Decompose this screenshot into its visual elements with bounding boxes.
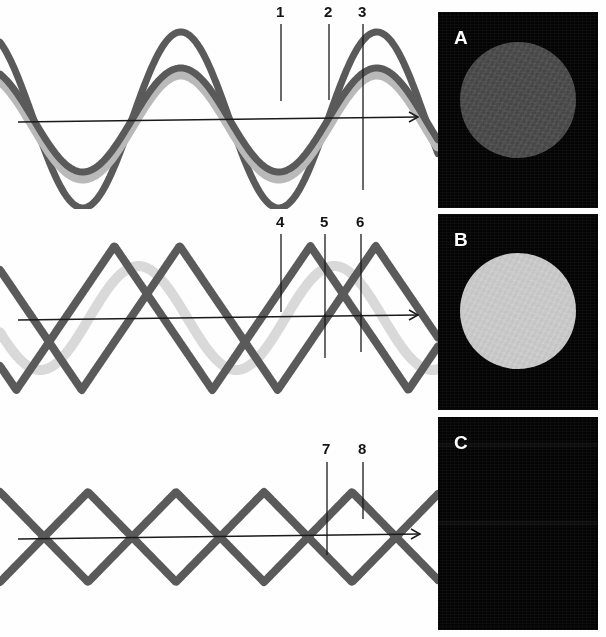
- image-panel-a-letter: A: [454, 28, 468, 47]
- callout-label-2: 2: [324, 4, 332, 19]
- image-panel-b: B: [438, 214, 598, 410]
- image-panel-a-disc-texture: [460, 42, 576, 158]
- image-panel-b-disc-texture: [460, 253, 576, 369]
- image-panel-c-scan-streak-lower: [438, 521, 598, 525]
- callout-label-6: 6: [356, 214, 364, 229]
- callout-label-8: 8: [358, 441, 366, 456]
- image-panel-c: C: [438, 417, 598, 630]
- callout-label-1: 1: [276, 4, 284, 19]
- figure-root: 12345678 ABC: [0, 0, 606, 637]
- image-panel-a: A: [438, 12, 598, 208]
- callout-label-7: 7: [322, 441, 330, 456]
- image-panel-b-disc: [460, 253, 576, 369]
- image-panel-c-letter: C: [454, 433, 468, 452]
- image-panel-a-disc: [460, 42, 576, 158]
- callout-label-4: 4: [276, 214, 284, 229]
- callout-label-5: 5: [320, 214, 328, 229]
- image-panel-b-letter: B: [454, 230, 468, 249]
- callout-label-3: 3: [358, 4, 366, 19]
